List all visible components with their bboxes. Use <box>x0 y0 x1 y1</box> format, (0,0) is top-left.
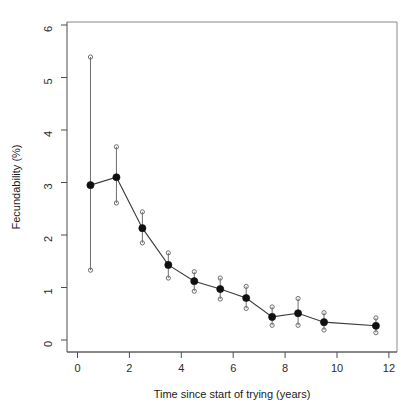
error-bars <box>88 55 378 335</box>
data-point-7 <box>269 313 276 320</box>
x-tick-label-0: 0 <box>74 362 80 374</box>
data-point-9 <box>320 319 327 326</box>
data-point-4 <box>191 278 198 285</box>
data-point-3 <box>165 261 172 268</box>
data-point-5 <box>217 285 224 292</box>
series-line-fecundability <box>90 177 375 326</box>
y-axis: 0123456 <box>42 25 67 347</box>
data-point-10 <box>372 322 379 329</box>
data-point-0 <box>87 182 94 189</box>
x-tick-label-12: 12 <box>383 362 395 374</box>
x-axis: 024681012 <box>74 352 395 374</box>
data-point-6 <box>243 294 250 301</box>
y-tick-label-0: 0 <box>42 341 54 347</box>
y-tick-label-1: 1 <box>42 288 54 294</box>
x-tick-label-10: 10 <box>331 362 343 374</box>
data-point-2 <box>139 225 146 232</box>
data-point-8 <box>294 310 301 317</box>
fecundability-line-chart: 0123456 024681012 Time since start of tr… <box>0 0 420 414</box>
x-tick-label-8: 8 <box>282 362 288 374</box>
data-point-1 <box>113 174 120 181</box>
x-axis-title: Time since start of trying (years) <box>154 388 311 400</box>
fecundability-chart-figure: 0123456 024681012 Time since start of tr… <box>0 0 420 414</box>
data-point-markers <box>87 174 380 330</box>
y-tick-label-6: 6 <box>42 26 54 32</box>
y-tick-label-3: 3 <box>42 183 54 189</box>
x-tick-label-4: 4 <box>178 362 184 374</box>
y-axis-title: Fecundability (%) <box>10 145 22 230</box>
y-tick-label-4: 4 <box>42 131 54 137</box>
y-tick-label-2: 2 <box>42 236 54 242</box>
x-tick-label-2: 2 <box>126 362 132 374</box>
y-tick-label-5: 5 <box>42 78 54 84</box>
x-tick-label-6: 6 <box>230 362 236 374</box>
